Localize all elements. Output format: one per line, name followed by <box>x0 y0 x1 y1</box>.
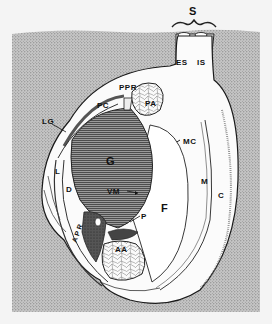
label-anterior-adductor: AA <box>115 246 128 254</box>
siphon-bracket <box>172 20 216 27</box>
label-digestive: D <box>66 186 72 194</box>
label-foot: F <box>161 203 168 214</box>
label-posterior-pedal-retractor: PPR <box>119 84 137 92</box>
label-mantle: M <box>201 178 208 186</box>
label-posterior-retractor-c: PC <box>97 102 109 110</box>
label-l: L <box>55 168 60 176</box>
label-exhalant-siphon: ES <box>176 59 188 67</box>
label-posterior-adductor: PA <box>145 100 157 108</box>
clam-anatomy-diagram <box>0 0 272 324</box>
label-inhalant-siphon: IS <box>197 59 206 67</box>
label-siphons: S <box>189 6 197 17</box>
label-shell: C <box>218 192 224 200</box>
label-visceral-mass: VM <box>107 188 120 196</box>
label-gill: G <box>106 156 115 167</box>
label-ligament: LG <box>42 118 54 126</box>
label-mantle-cavity: MC <box>183 138 196 146</box>
label-pedal: P <box>141 213 147 221</box>
